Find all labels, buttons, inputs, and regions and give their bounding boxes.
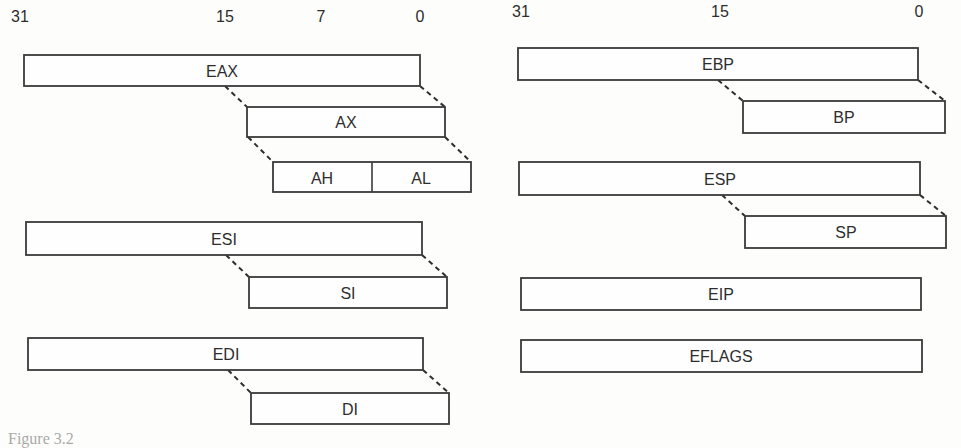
bit-label-15-right: 15 [711, 3, 729, 20]
connector-ax-ahal-right [445, 137, 471, 162]
register-label-esi: ESI [211, 231, 237, 248]
register-eip: EIP [521, 278, 921, 310]
connector-edi-di-right [423, 370, 449, 393]
register-ebp: EBP [518, 48, 918, 80]
register-label-eip: EIP [708, 286, 734, 303]
bit-label-31-right: 31 [512, 3, 530, 20]
register-ax: AX [247, 107, 445, 137]
register-label-ax: AX [335, 114, 357, 131]
bit-label-0-left: 0 [416, 8, 425, 25]
register-esi: ESI [26, 222, 422, 255]
register-eflags: EFLAGS [521, 340, 922, 372]
register-label-ebp: EBP [702, 56, 734, 73]
bit-label-0-right: 0 [915, 3, 924, 20]
register-label-eax: EAX [206, 63, 238, 80]
register-si: SI [249, 277, 447, 308]
register-edi: EDI [28, 338, 423, 370]
register-label-bp: BP [833, 109, 854, 126]
register-label-si: SI [340, 285, 355, 302]
register-label-al: AL [411, 170, 431, 187]
register-label-esp: ESP [704, 171, 736, 188]
register-label-edi: EDI [213, 346, 240, 363]
register-label-sp: SP [835, 224, 856, 241]
bit-label-31-left: 31 [11, 8, 29, 25]
connector-ebp-bp-left [718, 80, 743, 101]
bit-label-7-left: 7 [317, 8, 326, 25]
register-sp: SP [745, 216, 946, 248]
register-label-eflags: EFLAGS [689, 348, 752, 365]
connector-edi-di-left [228, 370, 251, 393]
connector-eax-ax-left [225, 86, 247, 107]
connector-esi-si-left [226, 255, 249, 277]
register-esp: ESP [519, 162, 920, 195]
connector-ebp-bp-right [918, 80, 945, 101]
bit-label-15-left: 15 [216, 8, 234, 25]
register-bp: BP [743, 101, 945, 133]
connector-esp-sp-right [920, 195, 946, 216]
register-ah-al: AH AL [273, 162, 471, 192]
connector-esp-sp-left [722, 195, 745, 216]
register-label-ah: AH [311, 170, 333, 187]
connector-eax-ax-right [420, 86, 445, 107]
register-di: DI [251, 393, 449, 424]
figure-caption-fragment: Figure 3.2 [8, 430, 74, 448]
register-label-di: DI [342, 401, 358, 418]
connector-ax-ahal-left [248, 137, 273, 162]
register-eax: EAX [24, 55, 420, 86]
connector-esi-si-right [422, 255, 447, 277]
